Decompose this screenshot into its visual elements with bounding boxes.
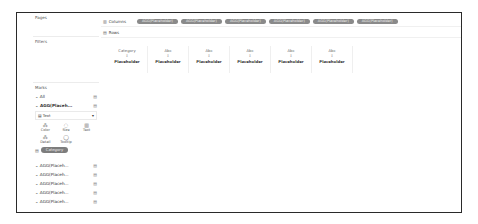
text-mark-icon: ▤ — [93, 181, 97, 186]
text-mark-icon: ▤ — [93, 103, 97, 108]
marks-card: Marks ⌄ All ▤ ⌄ AGG(Placeh... ▤ ▤ Text ▾… — [33, 83, 99, 211]
marks-agg-item-label: AGG(Placeh... — [40, 172, 69, 177]
rows-icon: ▤ — [103, 30, 107, 35]
header-cell[interactable]: Abc ↕ Placeholder — [148, 46, 189, 73]
marks-agg-item[interactable]: ⌄ AGG(Placeh... ▤ — [33, 161, 99, 170]
marks-agg-item[interactable]: ⌄ AGG(Placeh... ▤ — [33, 197, 99, 206]
marks-agg-item-label: AGG(Placeh... — [40, 181, 69, 186]
rows-shelf[interactable]: ▤Rows — [101, 26, 461, 38]
chevron-down-icon: ▾ — [92, 113, 94, 118]
tooltip-label: Tooltip — [60, 140, 71, 144]
columns-pills: AGG(Placeholder) AGG(Placeholder) AGG(Pl… — [137, 19, 398, 24]
header-cell[interactable]: Abc ↕ Placeholder — [230, 46, 271, 73]
header-cell[interactable]: Abc ↕ Placeholder — [312, 46, 353, 73]
marks-agg-item[interactable]: ⌄ AGG(Placeh... ▤ — [33, 170, 99, 179]
marks-buttons: ⁂ Color ◌ Size ▥ Text ⁂ Detail ◯ Toolt — [35, 122, 97, 144]
column-pill[interactable]: AGG(Placeholder) — [357, 19, 398, 24]
marks-agg-item-label: AGG(Placeh... — [40, 199, 69, 204]
text-mark-icon: ▤ — [93, 172, 97, 177]
text-mark-icon: ▤ — [93, 190, 97, 195]
header-value: Placeholder — [196, 59, 221, 64]
filters-card[interactable]: Filters — [33, 37, 99, 83]
text-mark-icon: ▤ — [93, 94, 97, 99]
detail-label: Detail — [40, 140, 50, 144]
view-headers: Category ↕ Placeholder Abc ↕ Placeholder… — [107, 46, 353, 73]
header-value: Placeholder — [114, 59, 139, 64]
filters-card-title: Filters — [33, 37, 99, 46]
header-value: Placeholder — [155, 59, 180, 64]
header-cell[interactable]: Abc ↕ Placeholder — [271, 46, 312, 73]
marks-agg-item-label: AGG(Placeh... — [40, 163, 69, 168]
category-pill-row: ▤ Category — [35, 147, 97, 153]
main-area: ▥Columns AGG(Placeholder) AGG(Placeholde… — [101, 13, 461, 212]
detail-button[interactable]: ⁂ Detail — [35, 134, 56, 144]
column-pill[interactable]: AGG(Placeholder) — [225, 19, 266, 24]
color-button[interactable]: ⁂ Color — [35, 122, 56, 132]
column-pill[interactable]: AGG(Placeholder) — [269, 19, 310, 24]
marks-agg-row[interactable]: ⌄ AGG(Placeh... ▤ — [33, 101, 99, 110]
left-panel: Pages Filters Marks ⌄ All ▤ ⌄ AGG(Placeh… — [17, 13, 101, 212]
marks-agg-item[interactable]: ⌄ AGG(Placeh... ▤ — [33, 179, 99, 188]
rows-label: Rows — [109, 30, 119, 35]
marks-all-row[interactable]: ⌄ All ▤ — [33, 92, 99, 101]
header-value: Placeholder — [278, 59, 303, 64]
text-mark-icon: ▤ — [35, 148, 39, 153]
columns-label: Columns — [109, 19, 126, 24]
marks-agg-item[interactable]: ⌄ AGG(Placeh... ▤ — [33, 188, 99, 197]
column-pill[interactable]: AGG(Placeholder) — [137, 19, 178, 24]
marks-agg-item-label: AGG(Placeh... — [40, 190, 69, 195]
size-label: Size — [62, 128, 69, 132]
tooltip-button[interactable]: ◯ Tooltip — [56, 134, 77, 144]
header-cell[interactable]: Category ↕ Placeholder — [107, 46, 148, 73]
header-cell[interactable]: Abc ↕ Placeholder — [189, 46, 230, 73]
header-value: Placeholder — [237, 59, 262, 64]
text-button[interactable]: ▥ Text — [76, 122, 97, 132]
column-pill[interactable]: AGG(Placeholder) — [313, 19, 354, 24]
text-label: Text — [83, 128, 90, 132]
size-button[interactable]: ◌ Size — [56, 122, 77, 132]
columns-icon: ▥ — [103, 19, 107, 24]
column-pill[interactable]: AGG(Placeholder) — [181, 19, 222, 24]
marks-all-label: All — [40, 94, 45, 99]
pages-card[interactable]: Pages — [33, 13, 99, 37]
text-mark-icon: ▤ — [93, 199, 97, 204]
pages-card-title: Pages — [33, 13, 99, 22]
marks-agg-label: AGG(Placeh... — [40, 103, 72, 108]
marks-card-title: Marks — [33, 83, 99, 92]
color-label: Color — [41, 128, 50, 132]
category-pill[interactable]: Category — [41, 147, 68, 153]
header-value: Placeholder — [319, 59, 344, 64]
text-mark-icon: ▤ — [93, 163, 97, 168]
mark-type-dropdown[interactable]: ▤ Text ▾ — [35, 111, 97, 120]
mark-type-value: Text — [43, 113, 51, 118]
tableau-worksheet: Pages Filters Marks ⌄ All ▤ ⌄ AGG(Placeh… — [16, 12, 462, 213]
columns-shelf[interactable]: ▥Columns AGG(Placeholder) AGG(Placeholde… — [101, 16, 461, 26]
